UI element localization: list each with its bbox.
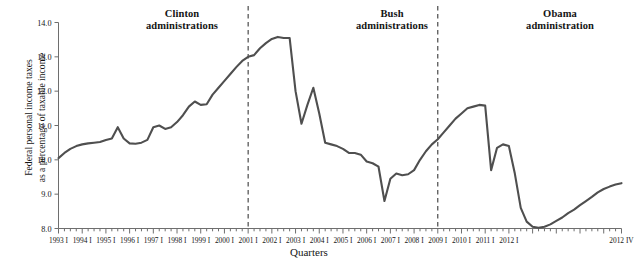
annotation-clinton-line1: Clinton xyxy=(112,8,252,20)
annotation-clinton-administrations: Clinton administrations xyxy=(112,8,252,32)
svg-text:2001 I: 2001 I xyxy=(239,236,259,245)
y-axis-title-line2: as a percentage of taxable income xyxy=(35,13,48,223)
svg-text:2010 I: 2010 I xyxy=(452,236,472,245)
y-axis-title-line1: Federal personal income taxes xyxy=(23,13,36,223)
svg-text:1993 I: 1993 I xyxy=(49,236,69,245)
svg-text:8.0: 8.0 xyxy=(41,225,51,234)
line-chart-svg: 8.09.010.011.012.013.014.0 1993 I1994 I1… xyxy=(0,0,639,265)
annotation-obama-line1: Obama xyxy=(490,8,630,20)
svg-text:2012 IV: 2012 IV xyxy=(609,236,634,245)
annotation-bush-administrations: Bush administrations xyxy=(322,8,462,32)
svg-text:1996 I: 1996 I xyxy=(120,236,140,245)
svg-text:1997 I: 1997 I xyxy=(144,236,164,245)
era-divider-lines xyxy=(248,6,438,229)
tax-rate-series-line xyxy=(59,37,622,228)
svg-text:1994 I: 1994 I xyxy=(73,236,93,245)
svg-text:2011 I: 2011 I xyxy=(476,236,495,245)
axis-ticks xyxy=(55,23,622,234)
svg-text:1999 I: 1999 I xyxy=(191,236,211,245)
annotation-clinton-line2: administrations xyxy=(112,20,252,32)
svg-text:2009 I: 2009 I xyxy=(428,236,448,245)
x-axis-title: Quarters xyxy=(290,246,328,258)
annotation-bush-line1: Bush xyxy=(322,8,462,20)
svg-text:2008 I: 2008 I xyxy=(405,236,425,245)
svg-text:2006 I: 2006 I xyxy=(357,236,377,245)
annotation-obama-administration: Obama administration xyxy=(490,8,630,32)
axes xyxy=(59,23,622,229)
svg-text:2000 I: 2000 I xyxy=(215,236,235,245)
x-tick-labels: 1993 I1994 I1995 I1996 I1997 I1998 I1999… xyxy=(49,236,634,245)
annotation-bush-line2: administrations xyxy=(322,20,462,32)
svg-text:2003 I: 2003 I xyxy=(286,236,306,245)
svg-text:1998 I: 1998 I xyxy=(167,236,187,245)
svg-text:2002 I: 2002 I xyxy=(262,236,282,245)
svg-text:2004 I: 2004 I xyxy=(310,236,330,245)
y-axis-title: Federal personal income taxes as a perce… xyxy=(23,13,48,223)
svg-text:2005 I: 2005 I xyxy=(333,236,353,245)
svg-text:1995 I: 1995 I xyxy=(96,236,116,245)
svg-text:2012 I: 2012 I xyxy=(499,236,519,245)
annotation-obama-line2: administration xyxy=(490,20,630,32)
svg-text:2007 I: 2007 I xyxy=(381,236,401,245)
chart-figure: 8.09.010.011.012.013.014.0 1993 I1994 I1… xyxy=(0,0,639,265)
